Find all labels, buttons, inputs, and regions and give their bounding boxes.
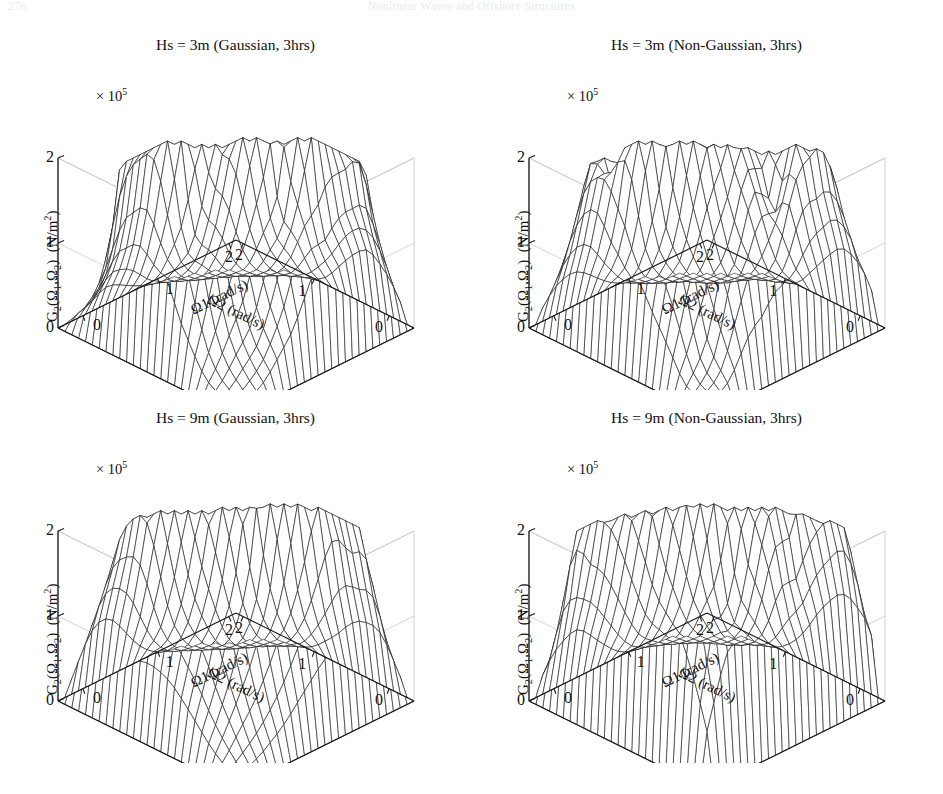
y-axis-tick: 2 (32, 521, 54, 539)
left-axis-tick: 0 (375, 318, 383, 336)
right-axis-tick: 1 (637, 653, 645, 671)
y-axis-tick: 2 (32, 148, 54, 166)
surface-panel-1: Hs = 3m (Gaussian, 3hrs) G2(Ω1,Ω2) (N/m2… (0, 22, 471, 402)
y-axis-label: G2(Ω1,Ω2) (N/m2) (513, 584, 534, 695)
panel-title: Hs = 3m (Non-Gaussian, 3hrs) (471, 36, 942, 54)
y-axis-tick: 2 (503, 148, 525, 166)
surface-plot (471, 433, 942, 763)
left-axis-tick: 2 (696, 621, 704, 639)
right-axis-tick: 1 (637, 280, 645, 298)
left-axis-tick: 1 (298, 655, 306, 673)
y-axis-tick: 0 (32, 318, 54, 336)
surface-panel-2: Hs = 3m (Non-Gaussian, 3hrs) G2(Ω1,Ω2) (… (471, 22, 942, 402)
y-axis-label: G2(Ω1,Ω2) (N/m2) (42, 211, 63, 322)
y-axis-label: G2(Ω1,Ω2) (N/m2) (42, 584, 63, 695)
y-axis-label: G2(Ω1,Ω2) (N/m2) (513, 211, 534, 322)
y-axis-exponent: × 105 (567, 86, 598, 105)
right-axis-tick: 0 (564, 316, 572, 334)
surface-plot (0, 433, 471, 763)
left-axis-tick: 2 (696, 248, 704, 266)
surface-plot (0, 60, 471, 390)
y-axis-tick: 1 (503, 606, 525, 624)
page-header: 276 Nonlinear Waves and Offshore Structu… (0, 0, 943, 14)
left-axis-tick: 1 (769, 655, 777, 673)
right-axis-tick: 0 (564, 689, 572, 707)
right-axis-tick: 1 (166, 280, 174, 298)
panel-title: Hs = 9m (Gaussian, 3hrs) (0, 409, 471, 427)
right-axis-tick: 0 (93, 316, 101, 334)
left-axis-tick: 2 (225, 621, 233, 639)
left-axis-tick: 1 (769, 282, 777, 300)
y-axis-exponent: × 105 (96, 459, 127, 478)
plot-canvas (471, 433, 942, 763)
surface-panel-3: Hs = 9m (Gaussian, 3hrs) G2(Ω1,Ω2) (N/m2… (0, 395, 471, 775)
left-axis-tick: 0 (375, 691, 383, 709)
right-axis-tick: 2 (706, 246, 714, 264)
right-axis-tick: 0 (93, 689, 101, 707)
surface-plot (471, 60, 942, 390)
left-axis-tick: 0 (846, 691, 854, 709)
y-axis-tick: 0 (32, 691, 54, 709)
panel-title: Hs = 9m (Non-Gaussian, 3hrs) (471, 409, 942, 427)
y-axis-tick: 0 (503, 318, 525, 336)
left-axis-tick: 0 (846, 318, 854, 336)
y-axis-exponent: × 105 (96, 86, 127, 105)
left-axis-tick: 1 (298, 282, 306, 300)
y-axis-tick: 1 (32, 233, 54, 251)
panel-title: Hs = 3m (Gaussian, 3hrs) (0, 36, 471, 54)
y-axis-tick: 1 (503, 233, 525, 251)
surface-panel-4: Hs = 9m (Non-Gaussian, 3hrs) G2(Ω1,Ω2) (… (471, 395, 942, 775)
right-axis-tick: 2 (235, 246, 243, 264)
y-axis-tick: 1 (32, 606, 54, 624)
right-axis-tick: 2 (706, 619, 714, 637)
plot-canvas (0, 433, 471, 763)
y-axis-tick: 2 (503, 521, 525, 539)
y-axis-tick: 0 (503, 691, 525, 709)
running-title: Nonlinear Waves and Offshore Structures (0, 0, 943, 12)
plot-canvas (471, 60, 942, 390)
plot-canvas (0, 60, 471, 390)
left-axis-tick: 2 (225, 248, 233, 266)
y-axis-exponent: × 105 (567, 459, 598, 478)
right-axis-tick: 2 (235, 619, 243, 637)
right-axis-tick: 1 (166, 653, 174, 671)
